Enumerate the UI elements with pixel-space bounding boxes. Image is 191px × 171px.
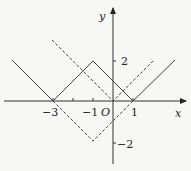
tick-label-x-neg1: −1 bbox=[82, 106, 98, 119]
tick-label-x-1: 1 bbox=[131, 106, 138, 119]
origin-label: O bbox=[101, 106, 110, 119]
solid-curve bbox=[12, 60, 175, 101]
function-graph: −3 −1 O 1 x y 2 −2 bbox=[0, 0, 191, 171]
tick-label-y-2: 2 bbox=[121, 55, 128, 68]
y-axis-label: y bbox=[98, 10, 106, 23]
tick-label-x-neg3: −3 bbox=[42, 106, 58, 119]
x-axis-label: x bbox=[175, 107, 182, 120]
tick-label-y-neg2: −2 bbox=[117, 138, 133, 151]
